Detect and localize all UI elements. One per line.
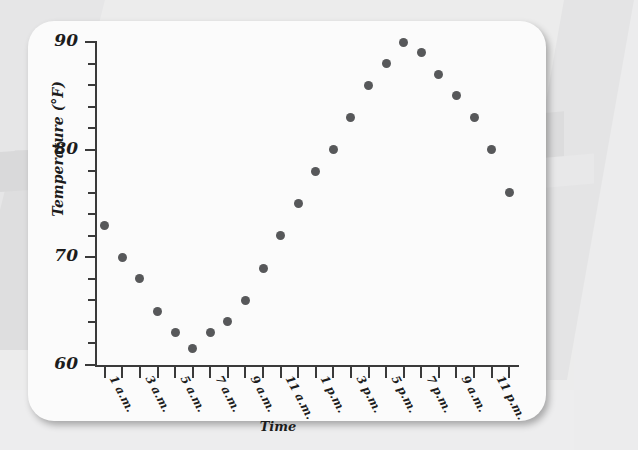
data-point bbox=[434, 70, 443, 79]
x-axis-tick-label: 11 p.m. bbox=[494, 373, 529, 422]
y-axis-tick-label: 80 bbox=[18, 138, 78, 158]
x-axis-tick bbox=[262, 367, 264, 378]
x-axis-tick bbox=[209, 367, 211, 378]
chart-card: 60708090 1 a.m.3 a.m.5 a.m.7 a.m.9 a.m.1… bbox=[28, 21, 546, 421]
data-point bbox=[188, 344, 197, 353]
x-axis-tick bbox=[455, 367, 457, 378]
y-axis-minor-tick bbox=[88, 321, 97, 323]
y-axis-minor-tick bbox=[88, 106, 97, 108]
y-axis-minor-tick bbox=[88, 127, 97, 129]
y-axis-major-tick bbox=[85, 149, 97, 151]
x-axis-tick-label: 3 a.m. bbox=[142, 373, 173, 415]
data-point bbox=[118, 253, 127, 262]
x-axis-title: Time bbox=[223, 419, 333, 434]
data-point bbox=[223, 317, 232, 326]
x-axis-tick bbox=[420, 367, 422, 378]
data-point bbox=[294, 199, 303, 208]
y-axis-line bbox=[95, 41, 97, 366]
y-axis-tick-label: 70 bbox=[18, 245, 78, 265]
data-point bbox=[276, 231, 285, 240]
x-axis-tick-label: 3 p.m. bbox=[353, 373, 384, 415]
data-point bbox=[452, 91, 461, 100]
data-point bbox=[206, 328, 215, 337]
x-axis-tick bbox=[385, 367, 387, 378]
y-axis-minor-tick bbox=[88, 192, 97, 194]
data-point bbox=[382, 59, 391, 68]
y-axis-tick-label: 90 bbox=[18, 30, 78, 50]
x-axis-tick bbox=[332, 367, 334, 378]
x-axis-tick bbox=[280, 367, 282, 378]
y-axis-major-tick bbox=[85, 256, 97, 258]
data-point bbox=[153, 307, 162, 316]
data-point bbox=[311, 167, 320, 176]
y-axis-minor-tick bbox=[88, 278, 97, 280]
y-axis-minor-tick bbox=[88, 84, 97, 86]
y-axis-title: Temperature (°F) bbox=[50, 64, 66, 234]
x-axis-tick-label: 9 a.m. bbox=[459, 373, 490, 415]
data-point bbox=[171, 328, 180, 337]
data-point bbox=[346, 113, 355, 122]
x-axis-tick-label: 11 a.m. bbox=[283, 373, 318, 422]
x-axis-tick-label: 1 a.m. bbox=[107, 373, 138, 415]
data-point bbox=[399, 38, 408, 47]
x-axis-tick bbox=[121, 367, 123, 378]
data-point bbox=[470, 113, 479, 122]
data-point bbox=[364, 81, 373, 90]
data-point bbox=[100, 221, 109, 230]
data-point bbox=[505, 188, 514, 197]
x-axis-tick-label: 7 a.m. bbox=[213, 373, 244, 415]
scatter-plot: 60708090 1 a.m.3 a.m.5 a.m.7 a.m.9 a.m.1… bbox=[28, 21, 546, 421]
x-axis-tick-label: 1 p.m. bbox=[318, 373, 349, 415]
data-point bbox=[241, 296, 250, 305]
x-axis-tick-label: 7 p.m. bbox=[424, 373, 455, 415]
y-axis-minor-tick bbox=[88, 342, 97, 344]
x-axis-tick bbox=[491, 367, 493, 378]
x-axis-tick bbox=[350, 367, 352, 378]
y-axis-major-tick bbox=[85, 364, 97, 366]
y-axis-minor-tick bbox=[88, 170, 97, 172]
data-point bbox=[135, 274, 144, 283]
y-axis-tick-label: 60 bbox=[18, 353, 78, 373]
data-point bbox=[259, 264, 268, 273]
x-axis-tick bbox=[244, 367, 246, 378]
y-axis-minor-tick bbox=[88, 299, 97, 301]
x-axis-tick bbox=[473, 367, 475, 378]
x-axis-tick bbox=[104, 367, 106, 378]
x-axis-tick bbox=[174, 367, 176, 378]
x-axis-tick bbox=[508, 367, 510, 378]
y-axis-minor-tick bbox=[88, 213, 97, 215]
x-axis-tick-label: 9 a.m. bbox=[248, 373, 279, 415]
data-point bbox=[487, 145, 496, 154]
x-axis-tick-label: 5 p.m. bbox=[388, 373, 419, 415]
x-axis-tick-label: 5 a.m. bbox=[177, 373, 208, 415]
x-axis-tick bbox=[315, 367, 317, 378]
y-axis-minor-tick bbox=[88, 235, 97, 237]
y-axis-minor-tick bbox=[88, 63, 97, 65]
data-point bbox=[417, 48, 426, 57]
x-axis-tick bbox=[139, 367, 141, 378]
data-point bbox=[329, 145, 338, 154]
y-axis-major-tick bbox=[85, 41, 97, 43]
x-axis-tick bbox=[297, 367, 299, 378]
